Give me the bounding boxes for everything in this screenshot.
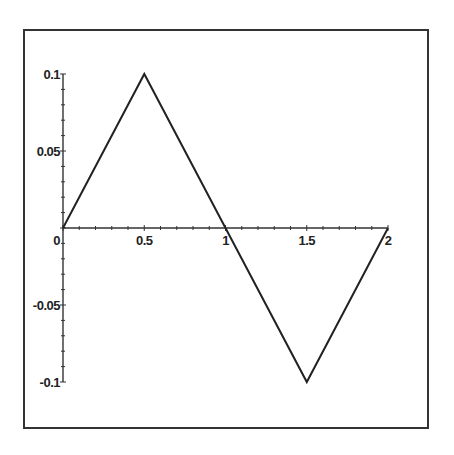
y-tick-label: -0.1 bbox=[40, 375, 61, 390]
x-tick-label: 0 bbox=[53, 233, 60, 248]
y-tick-labels: 0.10.05-0.05-0.1 bbox=[33, 67, 60, 390]
y-tick-label: 0.05 bbox=[37, 144, 61, 159]
x-tick-label: 1 bbox=[222, 233, 229, 248]
axes bbox=[60, 74, 388, 382]
x-tick-label: 1.5 bbox=[298, 233, 315, 248]
chart: 00.511.52 0.10.05-0.05-0.1 bbox=[0, 0, 454, 455]
y-tick-label: -0.05 bbox=[33, 298, 60, 313]
y-tick-label: 0.1 bbox=[43, 67, 60, 82]
x-tick-label: 2 bbox=[385, 233, 392, 248]
x-tick-label: 0.5 bbox=[136, 233, 153, 248]
x-tick-labels: 00.511.52 bbox=[53, 233, 391, 248]
